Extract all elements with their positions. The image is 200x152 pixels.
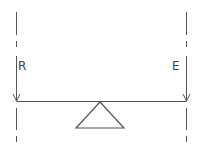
label-r: R (18, 59, 26, 73)
fulcrum-triangle-icon (76, 102, 124, 128)
right-force-arrow-icon (183, 56, 190, 101)
lever-diagram: R E (0, 0, 200, 152)
label-e: E (172, 59, 180, 73)
